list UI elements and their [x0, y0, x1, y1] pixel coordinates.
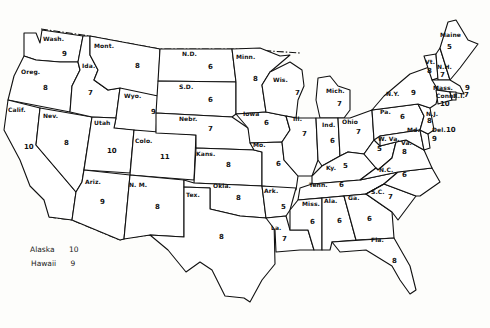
state-north-dakota [158, 49, 236, 82]
value-nd: 6 [208, 63, 213, 71]
label-ind: Ind. [322, 121, 335, 128]
value-ind: 6 [330, 137, 335, 145]
label-ohio: Ohio [342, 118, 358, 125]
value-sd: 6 [208, 96, 213, 104]
label-tex: Tex. [186, 191, 200, 198]
label-miss: Miss. [302, 200, 320, 207]
label-ala: Ala. [324, 197, 337, 204]
value-nh: 7 [440, 71, 445, 79]
label-nh: N.H. [437, 63, 452, 70]
label-ariz: Ariz. [85, 178, 101, 185]
value-del: 10 [446, 126, 456, 134]
label-kans: Kans. [196, 150, 215, 157]
label-utah: Utah [94, 119, 110, 126]
label-wva: W. Va. [378, 135, 400, 142]
label-colo: Colo. [135, 137, 152, 144]
value-md: 9 [432, 135, 437, 143]
label-mo: Mo. [253, 141, 266, 148]
value-vt: 8 [427, 67, 432, 75]
label-iowa: Iowa [243, 110, 259, 117]
value-ill: 7 [302, 130, 307, 138]
value-conn: 10 [440, 100, 450, 108]
value-ohio: 7 [356, 128, 361, 136]
label-ill: Ill. [293, 115, 302, 122]
value-nm: 8 [155, 203, 160, 211]
value-minn: 8 [253, 75, 258, 83]
label-fla: Fla. [371, 236, 384, 243]
us-map [0, 0, 490, 328]
value-oreg: 8 [43, 84, 48, 92]
value-nebr: 7 [208, 125, 213, 133]
label-nebr: Nebr. [179, 115, 197, 122]
value-wis: 7 [295, 89, 300, 97]
label-pa: Pa. [380, 108, 391, 115]
value-ariz: 9 [100, 198, 105, 206]
value-ri: 7 [464, 91, 469, 99]
label-oreg: Oreg. [21, 68, 40, 75]
value-calif: 10 [24, 143, 34, 151]
legend-hawaii-value: 9 [71, 259, 76, 268]
label-vt: Vt. [425, 58, 435, 65]
value-nc: 6 [402, 171, 407, 179]
label-mont: Mont. [94, 42, 114, 49]
label-ny: N.Y. [386, 90, 399, 97]
value-pa: 6 [400, 113, 405, 121]
label-ky: Ky. [326, 164, 336, 171]
value-tenn: 6 [339, 181, 344, 189]
label-la: La. [271, 224, 281, 231]
label-va: Va. [401, 139, 412, 146]
value-kans: 8 [226, 161, 231, 169]
value-ala: 6 [337, 217, 342, 225]
value-mont: 8 [135, 62, 140, 70]
legend-alaska: Alaska 10 [30, 245, 78, 254]
state-south-dakota [156, 81, 236, 117]
legend-hawaii: Hawaii 9 [31, 259, 75, 268]
label-nm: N. M. [129, 181, 147, 188]
legend-hawaii-name: Hawaii [31, 259, 56, 268]
label-wis: Wis. [273, 76, 288, 83]
value-la: 7 [282, 235, 287, 243]
label-nev: Nev. [43, 112, 58, 119]
value-sc: 7 [388, 193, 393, 201]
state-michigan [316, 76, 350, 118]
value-maine: 5 [447, 43, 452, 51]
value-ga: 6 [367, 215, 372, 223]
value-wash: 9 [62, 50, 67, 58]
label-sc: S.C. [371, 188, 385, 195]
label-calif: Calif. [8, 106, 26, 113]
label-nj: N.J. [426, 110, 438, 117]
label-wash: Wash. [43, 35, 64, 42]
value-mo: 6 [276, 160, 281, 168]
label-maine: Maine [440, 31, 461, 38]
label-md: Md. [407, 126, 420, 133]
label-tenn: Tenn. [309, 181, 328, 188]
value-wva: 5 [377, 145, 382, 153]
value-va: 8 [402, 148, 407, 156]
value-fla: 8 [392, 257, 397, 265]
label-del: Del. [432, 126, 446, 133]
label-mass: Mass. [433, 84, 453, 91]
label-okla: Okla. [213, 182, 231, 189]
value-ida: 7 [88, 89, 93, 97]
label-minn: Minn. [236, 53, 255, 60]
label-ida: Ida. [82, 62, 95, 69]
value-colo: 11 [160, 153, 170, 161]
label-wyo: Wyo. [124, 92, 141, 99]
label-mich: Mich. [326, 87, 345, 94]
value-okla: 8 [236, 194, 241, 202]
value-iowa: 6 [264, 119, 269, 127]
value-ky: 5 [343, 162, 348, 170]
value-miss: 6 [310, 218, 315, 226]
value-tex: 8 [219, 233, 224, 241]
value-nj: 8 [427, 117, 432, 125]
label-sd: S.D. [179, 83, 193, 90]
label-ga: Ga. [348, 194, 360, 201]
value-wyo: 9 [151, 108, 156, 116]
state-florida [332, 238, 416, 294]
legend-alaska-value: 10 [69, 245, 79, 254]
value-ark: 5 [281, 203, 286, 211]
value-nev: 8 [64, 139, 69, 147]
label-ark: Ark. [264, 187, 278, 194]
label-conn: Conn. [436, 92, 456, 99]
legend-alaska-name: Alaska [30, 245, 55, 254]
